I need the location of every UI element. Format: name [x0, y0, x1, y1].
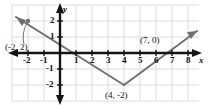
y-tick-neg2: -2 — [46, 80, 54, 89]
x-axis-label: x — [199, 56, 204, 65]
y-axis-label: y — [63, 5, 67, 14]
x-tick-6: 6 — [154, 56, 159, 65]
point-label-left: (-2, 2) — [5, 43, 28, 52]
point-label-vertex: (4, -2) — [105, 91, 128, 100]
axis-lines — [14, 8, 197, 100]
x-tick-8: 8 — [186, 56, 191, 65]
x-tick-4: 4 — [122, 56, 127, 65]
x-tick-3: 3 — [106, 56, 111, 65]
x-tick-7: 7 — [170, 56, 175, 65]
x-tick-1: 1 — [74, 56, 79, 65]
leader-line — [23, 22, 28, 44]
y-tick-2: 2 — [50, 16, 55, 25]
x-tick-2: 2 — [90, 56, 95, 65]
graph-figure: -2 -1 1 2 3 4 5 6 7 8 2 1 -1 -2 y x (-2,… — [0, 0, 211, 108]
y-tick-1: 1 — [50, 32, 55, 41]
function-graph — [16, 17, 197, 85]
x-tick-neg2: -2 — [23, 56, 31, 65]
point-label-xintercept: (7, 0) — [140, 36, 160, 45]
y-tick-neg1: -1 — [46, 64, 54, 73]
x-tick-5: 5 — [138, 56, 143, 65]
